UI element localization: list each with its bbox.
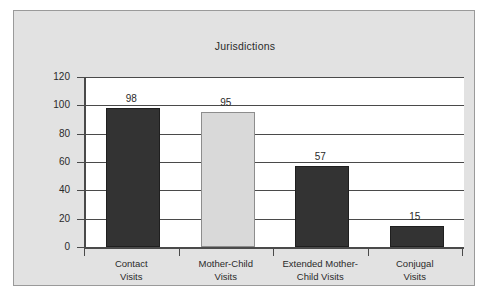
bar-value-label: 15: [388, 211, 442, 222]
x-axis-tick: [462, 249, 463, 256]
y-axis-tick-20: [77, 219, 84, 220]
bar[interactable]: [295, 166, 349, 247]
chart-frame: Jurisdictions 02040608010012098Contact V…: [13, 10, 475, 286]
y-axis-label-0: 0: [36, 242, 70, 252]
y-axis-tick-60: [77, 162, 84, 163]
x-axis-tick: [368, 249, 369, 256]
x-axis-tick: [273, 249, 274, 256]
bar[interactable]: [201, 112, 255, 247]
gridline-100: [86, 105, 464, 106]
y-axis-tick-0: [77, 247, 84, 248]
y-axis-label-20: 20: [36, 214, 70, 224]
chart-figure: Jurisdictions 02040608010012098Contact V…: [0, 0, 499, 299]
y-axis-label-40: 40: [36, 185, 70, 195]
chart-title: Jurisdictions: [14, 40, 476, 52]
y-axis-tick-80: [77, 134, 84, 135]
y-axis-label-100: 100: [36, 100, 70, 110]
y-axis-tick-120: [77, 77, 84, 78]
y-axis-tick-40: [77, 190, 84, 191]
y-axis-label-60: 60: [36, 157, 70, 167]
bar[interactable]: [106, 108, 160, 247]
y-axis-label-120: 120: [36, 72, 70, 82]
bar-value-label: 95: [199, 97, 253, 108]
y-axis-tick-100: [77, 105, 84, 106]
x-axis-category-label: Conjugal Visits: [360, 257, 471, 283]
bar-value-label: 98: [104, 93, 158, 104]
y-axis-label-80: 80: [36, 129, 70, 139]
x-axis-tick: [84, 249, 85, 256]
x-axis-tick: [179, 249, 180, 256]
bar[interactable]: [390, 226, 444, 247]
gridline-120: [86, 77, 464, 78]
bar-value-label: 57: [293, 151, 347, 162]
